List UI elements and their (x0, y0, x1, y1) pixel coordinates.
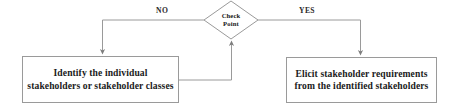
check-point-label-line1: Check (222, 12, 241, 20)
branch-label-no: NO (156, 6, 168, 15)
feedback-connector (179, 44, 232, 81)
elicit-requirements-line2: from the identified stakeholders (295, 80, 429, 93)
identify-stakeholders-line2: stakeholders or stakeholder classes (27, 80, 173, 93)
check-point-label: Check Point (204, 1, 258, 39)
elicit-requirements-line1: Elicit stakeholder requirements (295, 68, 427, 81)
elicit-requirements-box[interactable]: Elicit stakeholder requirements from the… (286, 57, 437, 103)
check-point-decision-node[interactable]: Check Point (204, 1, 258, 39)
no-branch-connector (103, 20, 205, 52)
check-point-label-line2: Point (223, 20, 239, 28)
branch-label-yes: YES (299, 6, 315, 15)
identify-stakeholders-box[interactable]: Identify the individual stakeholders or … (22, 56, 179, 103)
identify-stakeholders-line1: Identify the individual (54, 67, 148, 80)
yes-branch-connector (258, 20, 361, 53)
flowchart-diagram: NO YES Check Point Identify the individu… (0, 0, 464, 111)
